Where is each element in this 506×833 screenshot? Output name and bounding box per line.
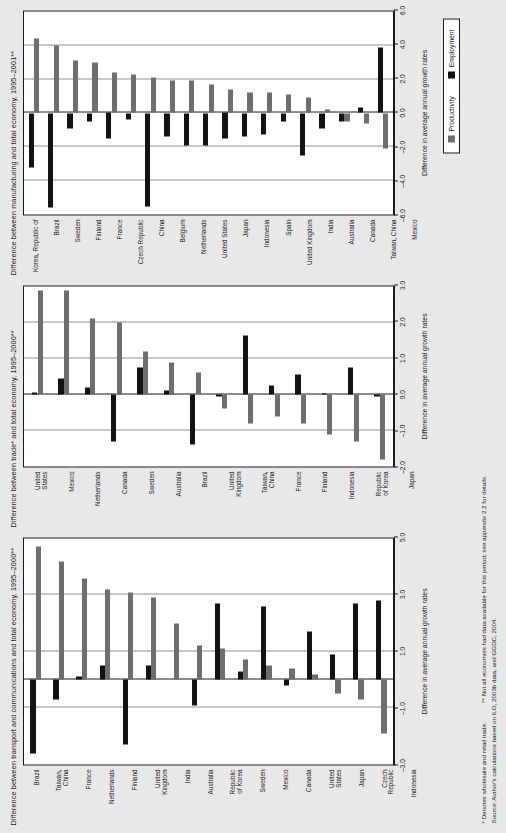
bar-group — [260, 538, 273, 764]
axis-tick-label: –2.0 — [399, 461, 406, 474]
employment-bar — [29, 113, 34, 167]
bar-group — [57, 286, 70, 466]
legend-item-employment: Employment — [448, 29, 455, 78]
category-label: Indonesia — [411, 765, 418, 825]
category-label: United Kingdom — [155, 765, 168, 825]
bar-group — [189, 286, 202, 466]
bar-group — [136, 286, 149, 466]
plot-wrapper: –3.0–1.01.03.05.0 Difference in average … — [23, 537, 428, 765]
bar-group — [377, 11, 390, 214]
bar-group — [373, 286, 386, 466]
productivity-bar — [54, 45, 59, 113]
source-line: Source: Author's calculations based on I… — [489, 475, 498, 823]
category-label: France — [86, 765, 93, 825]
bar-group — [163, 11, 176, 214]
legend-item-productivity: Productivity — [448, 96, 455, 142]
category-label: Finland — [322, 467, 329, 527]
plot-area — [23, 285, 394, 467]
productivity-bar — [197, 645, 202, 679]
employment-bar — [146, 665, 151, 679]
axis-tick — [394, 43, 398, 44]
category-label: Netherlands — [201, 215, 208, 275]
axis-tick-label: 4.0 — [399, 40, 406, 49]
productivity-bar — [248, 394, 253, 423]
panel-container: Difference between transport and communi… — [10, 8, 428, 825]
productivity-bar — [73, 60, 78, 112]
productivity-bar — [247, 92, 252, 112]
productivity-bar — [196, 372, 201, 394]
employment-swatch-icon — [448, 71, 455, 78]
employment-bar — [203, 113, 208, 145]
productivity-bar — [222, 394, 227, 408]
employment-bar — [190, 394, 195, 444]
employment-bar — [111, 394, 116, 441]
footnote-1: * Denotes wholesale and retail trade. — [480, 722, 487, 823]
employment-bar — [215, 603, 220, 679]
employment-bar — [307, 631, 312, 679]
productivity-bar — [209, 84, 214, 113]
employment-bar — [164, 390, 169, 394]
productivity-bar — [90, 318, 95, 394]
productivity-bar — [327, 394, 332, 434]
axis-tick-label: 3.0 — [399, 589, 406, 598]
bar-group — [47, 11, 60, 214]
category-label: Republic of Korea — [230, 765, 243, 825]
axis-tick — [394, 707, 398, 708]
category-label: Sweden — [75, 215, 82, 275]
footnote-2: ** Not all economies had data available … — [480, 475, 487, 703]
employment-bar — [322, 393, 327, 394]
bar-series-container — [24, 286, 393, 466]
bar-group — [163, 286, 176, 466]
productivity-bar — [151, 77, 156, 113]
employment-bar — [164, 113, 169, 137]
category-label: China — [159, 215, 166, 275]
category-label: Canada — [122, 467, 129, 527]
employment-bar — [48, 113, 53, 208]
employment-bar — [123, 679, 128, 744]
bar-group — [144, 11, 157, 214]
productivity-bar — [243, 659, 248, 679]
panel-title: Difference between trade* and total econ… — [10, 285, 18, 527]
axis-tick-label: 2.0 — [399, 317, 406, 326]
employment-bar — [261, 606, 266, 679]
employment-bar — [238, 671, 243, 679]
x-axis: –2.0–1.00.01.02.03.0 — [394, 285, 420, 467]
productivity-bar — [131, 74, 136, 113]
bar-group — [168, 538, 181, 764]
panel-transport-communications: Difference between transport and communi… — [10, 537, 428, 825]
axis-tick — [394, 466, 398, 467]
employment-bar — [242, 113, 247, 137]
bar-group — [122, 538, 135, 764]
productivity-bar — [34, 38, 39, 112]
employment-bar — [374, 394, 379, 396]
productivity-bar — [286, 94, 291, 113]
axis-tick — [394, 146, 398, 147]
productivity-bar — [64, 290, 69, 394]
legend-label-employment: Employment — [448, 29, 455, 67]
productivity-bar — [112, 72, 117, 113]
bar-group — [329, 538, 342, 764]
productivity-bar — [358, 679, 363, 699]
panel-title: Difference between transport and communi… — [10, 537, 18, 825]
x-axis-title: Difference in average annual growth rate… — [421, 10, 428, 215]
bar-group — [221, 11, 234, 214]
employment-bar — [295, 374, 300, 394]
axis-tick-label: 1.0 — [399, 353, 406, 362]
category-label: Taiwan, China — [262, 467, 275, 527]
employment-bar — [339, 113, 344, 121]
bar-group — [52, 538, 65, 764]
bar-group — [375, 538, 388, 764]
category-labels: United StatesMexicoNetherlandsCanadaSwed… — [23, 467, 428, 527]
category-label: Netherlands — [109, 765, 116, 825]
x-axis-title: Difference in average annual growth rate… — [421, 537, 428, 765]
plot-area — [23, 10, 394, 215]
axis-tick-label: –3.0 — [399, 759, 406, 772]
category-label: United Kingdom — [307, 215, 314, 275]
employment-bar — [353, 603, 358, 679]
category-label: Canada — [370, 215, 377, 275]
bar-group — [84, 286, 97, 466]
bar-group — [31, 286, 44, 466]
category-label: United Kingdom — [229, 467, 242, 527]
category-label: Brazil — [34, 765, 41, 825]
axis-tick — [394, 430, 398, 431]
